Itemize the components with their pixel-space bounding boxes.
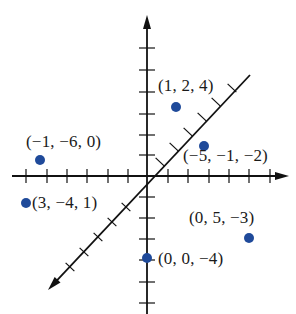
diagonal-tick: [198, 113, 207, 121]
data-point: [21, 198, 31, 208]
diagonal-tick: [156, 158, 165, 166]
point-label: (0, 0, −4): [158, 250, 223, 267]
point-label: (−1, −6, 0): [26, 133, 101, 150]
point-label: (−5, −1, −2): [183, 147, 268, 164]
diagonal-tick: [212, 98, 221, 106]
diagonal-tick: [170, 143, 179, 151]
diagonal-tick: [184, 128, 193, 136]
data-point: [35, 155, 45, 165]
data-point: [142, 253, 152, 263]
vertical-axis-arrow-icon: [143, 15, 151, 29]
data-point: [244, 233, 254, 243]
data-point: [171, 102, 181, 112]
point-label: (0, 5, −3): [189, 209, 254, 226]
point-label: (3, −4, 1): [32, 194, 97, 211]
diagonal-tick: [228, 84, 237, 92]
coordinate-diagram: (1, 2, 4)(−5, −1, −2)(−1, −6, 0)(3, −4, …: [0, 0, 296, 314]
horizontal-axis-arrow-icon: [275, 172, 289, 180]
point-label: (1, 2, 4): [158, 77, 214, 94]
